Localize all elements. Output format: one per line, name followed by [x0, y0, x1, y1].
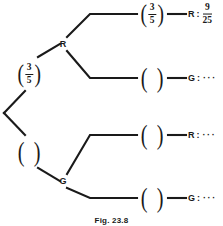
edge-root-to-lower-prob [4, 113, 25, 135]
edge-lower-prob-to-G [38, 168, 60, 181]
paren-close-icon: ) [157, 65, 164, 92]
paren-close-icon: ) [34, 139, 41, 166]
outcome-letter: R [188, 130, 195, 140]
outcome-ellipsis: ··· [203, 130, 217, 140]
probability-outcome-rg: ( ) [140, 65, 165, 92]
node-R: R [60, 39, 67, 49]
paren-open-icon: ( [18, 139, 25, 166]
probability-outcome-gr: ( ) [140, 122, 165, 149]
paren-open-icon: ( [141, 185, 148, 212]
outcome-label-gr: R : ··· [188, 130, 216, 140]
edge-root-to-upper-prob [4, 91, 25, 113]
edge-R-to-outcome-rr [67, 14, 137, 37]
paren-open-icon: ( [17, 61, 24, 87]
outcome-letter: R [188, 9, 195, 19]
paren-close-icon: ) [157, 1, 164, 27]
edge-G-to-outcome-gg [67, 188, 137, 198]
result-numerator: 9 [205, 3, 210, 13]
paren-open-icon: ( [141, 122, 148, 149]
outcome-ellipsis: ··· [203, 193, 217, 203]
edge-R-to-outcome-rg [67, 51, 137, 78]
denominator: 5 [27, 76, 32, 86]
outcome-letter: G [188, 73, 195, 83]
paren-close-icon: ) [34, 61, 41, 87]
outcome-label-rr: R : 9 25 [188, 3, 212, 26]
result-denominator: 25 [203, 16, 213, 26]
outcome-colon: : [197, 193, 200, 203]
node-G: G [59, 176, 66, 186]
paren-close-icon: ) [157, 185, 164, 212]
denominator: 5 [150, 16, 155, 26]
probability-outcome-gg: ( ) [140, 185, 165, 212]
outcome-letter: G [188, 193, 195, 203]
outcome-ellipsis: ··· [203, 73, 217, 83]
outcome-colon: : [197, 130, 200, 140]
outcome-colon: : [197, 9, 200, 19]
figure-caption: Fig. 23.8 [0, 216, 223, 225]
edge-upper-prob-to-R [38, 44, 60, 57]
outcome-label-rg: G : ··· [188, 73, 217, 83]
outcome-result-fraction: 9 25 [203, 3, 213, 26]
paren-close-icon: ) [157, 122, 164, 149]
paren-open-icon: ( [141, 65, 148, 92]
probability-root-g: ( ) [17, 139, 42, 166]
outcome-colon: : [197, 73, 200, 83]
probability-root-r: ( 3 5 ) [16, 61, 41, 87]
probability-tree-figure: ( 3 5 ) ( ) R G ( 3 5 ) ( ) [0, 0, 223, 226]
edge-G-to-outcome-gr [67, 135, 137, 174]
numerator: 3 [150, 3, 155, 13]
probability-outcome-rr: ( 3 5 ) [139, 1, 164, 27]
numerator: 3 [27, 63, 32, 73]
outcome-label-gg: G : ··· [188, 193, 217, 203]
paren-open-icon: ( [140, 1, 147, 27]
